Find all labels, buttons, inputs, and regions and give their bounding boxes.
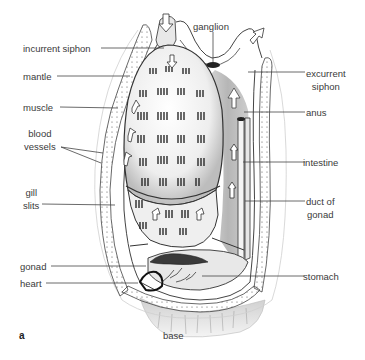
label-excurrent-line2: siphon xyxy=(306,80,346,93)
label-muscle: muscle xyxy=(23,101,53,114)
label-gill-line1: gill xyxy=(23,186,39,199)
figure-letter: a xyxy=(19,330,25,341)
label-duct-line2: gonad xyxy=(306,208,335,221)
label-heart: heart xyxy=(20,277,42,290)
label-incurrent-siphon: incurrent siphon xyxy=(23,42,91,55)
label-excurrent-siphon: excurrent siphon xyxy=(306,67,346,93)
label-anus: anus xyxy=(306,106,327,119)
pharynx-basket xyxy=(124,45,223,205)
label-blood-vessels: blood vessels xyxy=(24,127,56,153)
label-intestine: intestine xyxy=(303,156,338,169)
label-blood-line1: blood xyxy=(24,127,56,140)
label-gill-slits: gill slits xyxy=(23,186,39,212)
label-stomach: stomach xyxy=(303,270,339,283)
label-blood-line2: vessels xyxy=(24,140,56,153)
label-duct-of-gonad: duct of gonad xyxy=(306,195,335,221)
label-gill-line2: slits xyxy=(23,199,39,212)
intestine-tube xyxy=(237,117,250,266)
label-mantle: mantle xyxy=(23,70,52,83)
label-duct-line1: duct of xyxy=(306,195,335,208)
label-base: base xyxy=(163,329,184,342)
tunic-wall-right xyxy=(254,58,272,292)
label-gonad: gonad xyxy=(20,260,46,273)
label-excurrent-line1: excurrent xyxy=(306,67,346,80)
partition-left xyxy=(130,244,148,246)
label-ganglion: ganglion xyxy=(193,20,229,33)
